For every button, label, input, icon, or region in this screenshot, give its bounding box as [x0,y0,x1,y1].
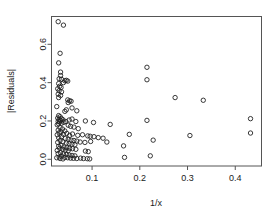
y-tick-label: 0.4 [38,76,48,89]
x-tick-label: 0.2 [134,173,147,183]
y-tick-label: 0.2 [38,115,48,128]
y-axis-title: |Residuals| [6,69,16,113]
y-tick-label: 0.0 [38,153,48,166]
y-tick-label: 0.6 [38,38,48,51]
figure-background [0,0,275,217]
plot-canvas: 0.10.20.30.4 0.00.20.40.6 1/x |Residuals… [0,0,275,217]
x-axis-title: 1/x [150,198,163,208]
x-tick-label: 0.1 [86,173,99,183]
x-tick-label: 0.3 [181,173,194,183]
x-tick-label: 0.4 [229,173,242,183]
scatter-plot-figure: 0.10.20.30.4 0.00.20.40.6 1/x |Residuals… [0,0,275,217]
